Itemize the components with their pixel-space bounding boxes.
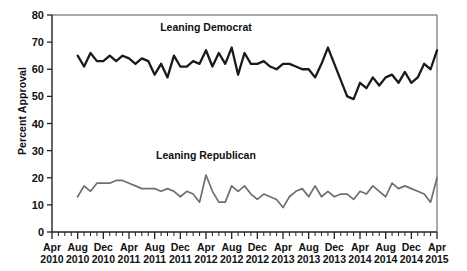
x-tick-year-label: 2013 [323,253,347,265]
y-tick-label: 30 [32,145,44,157]
plot-frame [52,15,437,232]
y-tick-label: 0 [38,226,44,238]
x-tick-month-label: Aug [221,241,241,253]
x-tick-year-label: 2015 [425,253,449,265]
x-tick-year-label: 2012 [246,253,270,265]
x-tick-month-label: Aug [144,241,164,253]
series-annotations: Leaning DemocratLeaning Republican [156,21,256,160]
series-line-leaning-republican [78,175,437,208]
x-tick-month-label: Apr [274,241,292,253]
x-tick-month-label: Apr [428,241,446,253]
x-tick-month-label: Apr [351,241,369,253]
y-tick-label: 10 [32,199,44,211]
x-tick-month-label: Aug [298,241,318,253]
y-tick-label: 60 [32,63,44,75]
x-tick-month-label: Apr [197,241,215,253]
x-tick-year-label: 2010 [40,253,64,265]
x-tick-year-label: 2012 [220,253,244,265]
y-tick-label: 70 [32,36,44,48]
x-tick-month-label: Apr [120,241,138,253]
y-tick-label: 80 [32,9,44,21]
x-tick-month-label: Dec [94,241,113,253]
x-tick-year-label: 2010 [66,253,90,265]
x-tick-year-label: 2014 [400,253,424,265]
x-tick-year-label: 2011 [169,253,192,265]
x-tick-month-label: Dec [325,241,344,253]
y-tick-label: 40 [32,118,44,130]
x-tick-year-label: 2013 [297,253,321,265]
x-tick-month-label: Dec [171,241,190,253]
x-tick-month-label: Aug [67,241,87,253]
x-tick-year-label: 2014 [348,253,372,265]
leaning-republican-label: Leaning Republican [156,149,256,161]
x-tick-month-label: Dec [248,241,267,253]
leaning-democrat-label: Leaning Democrat [160,21,252,33]
line-chart: 01020304050607080 Apr2010Aug2010Dec2010A… [0,0,467,271]
x-tick-year-label: 2013 [271,253,295,265]
x-tick-month-label: Apr [43,241,61,253]
x-tick-year-label: 2014 [374,253,398,265]
y-axis-ticks: 01020304050607080 [32,9,52,238]
chart-figure: Percent Approval 01020304050607080 Apr20… [0,0,467,271]
x-tick-year-label: 2011 [143,253,166,265]
series-group [78,48,437,208]
series-line-leaning-democrat [78,48,437,100]
y-tick-label: 20 [32,172,44,184]
x-axis-ticks: Apr2010Aug2010Dec2010Apr2011Aug2011Dec20… [40,232,449,265]
x-tick-year-label: 2010 [92,253,116,265]
x-tick-year-label: 2011 [118,253,141,265]
x-tick-month-label: Dec [402,241,421,253]
x-tick-year-label: 2012 [194,253,218,265]
x-tick-month-label: Aug [375,241,395,253]
y-tick-label: 50 [32,90,44,102]
